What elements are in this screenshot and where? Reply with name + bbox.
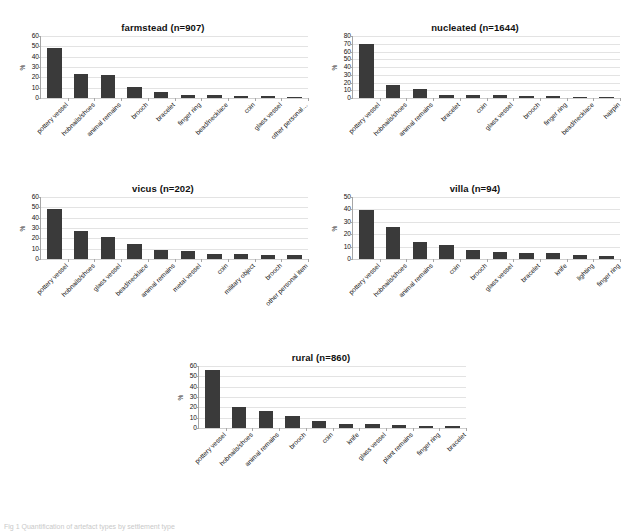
bar-slot xyxy=(255,36,282,98)
bar xyxy=(439,245,453,259)
bar xyxy=(47,48,61,98)
x-tickmark xyxy=(255,98,256,101)
bar-slot xyxy=(460,36,487,98)
bar xyxy=(207,95,221,98)
x-tick-label-text: glass vessel xyxy=(484,101,514,131)
bar xyxy=(359,44,373,98)
x-tick-label-text: brooch xyxy=(288,431,307,450)
bar-slot xyxy=(252,366,279,428)
bar xyxy=(285,416,299,428)
bar-slot xyxy=(148,36,175,98)
bar xyxy=(127,87,141,98)
x-tickmark xyxy=(593,98,594,101)
x-tick-label-text: bracelet xyxy=(154,101,176,123)
x-tickmark xyxy=(513,259,514,262)
y-axis-label-nucleated: % xyxy=(330,36,339,99)
y-axis-label-text: % xyxy=(331,226,338,232)
bar xyxy=(466,250,480,259)
x-tick-label: brooch xyxy=(130,101,149,120)
x-tickmark xyxy=(406,98,407,101)
bar xyxy=(47,209,61,259)
x-tickmark xyxy=(148,98,149,101)
bar xyxy=(207,254,221,259)
bar xyxy=(413,89,427,98)
chart-panel-vicus: vicus (n=202)%0102030405060pottery vesse… xyxy=(18,183,308,260)
x-tick-label-text: bracelet xyxy=(520,262,542,284)
bar-slot xyxy=(175,36,202,98)
bar-slot xyxy=(281,36,308,98)
x-tickmark xyxy=(433,259,434,262)
bar-slot xyxy=(68,197,95,259)
bar xyxy=(312,421,326,428)
bar-slot xyxy=(353,197,380,259)
chart-title-rural: rural (n=860) xyxy=(176,352,466,363)
bar-slot xyxy=(121,36,148,98)
bar xyxy=(573,255,587,259)
x-tick-label-text: knife xyxy=(346,431,361,446)
bar-slot xyxy=(201,36,228,98)
y-tickmark xyxy=(350,259,353,260)
bar-slot xyxy=(487,197,514,259)
x-tickmark xyxy=(281,98,282,101)
y-axis-label-text: % xyxy=(19,65,26,71)
x-tick-label-text: glass vessel xyxy=(484,262,514,292)
x-tickmark xyxy=(201,259,202,262)
bar-slot xyxy=(540,36,567,98)
x-tickmark xyxy=(279,428,280,431)
bar-slot xyxy=(406,197,433,259)
x-tickmark xyxy=(380,98,381,101)
x-tick-label-text: finger ring xyxy=(542,101,568,127)
x-tick-label-text: coin xyxy=(216,262,230,276)
x-tickmark xyxy=(460,259,461,262)
x-tickmark xyxy=(228,98,229,101)
x-tick-label: bracelet xyxy=(520,262,542,284)
plot-area-vicus: pottery vesselhobnails/shoesglass vessel… xyxy=(40,197,308,260)
plot-area-farmstead: pottery vesselhobnails/shoesanimal remai… xyxy=(40,36,308,99)
x-tickmark xyxy=(487,259,488,262)
x-tickmark xyxy=(540,259,541,262)
y-axis-label-villa: % xyxy=(330,197,339,260)
x-tick-label-text: finger ring xyxy=(177,101,203,127)
bar-slot xyxy=(255,197,282,259)
chart-title-farmstead: farmstead (n=907) xyxy=(18,22,308,33)
x-tick-label: finger ring xyxy=(415,431,441,457)
bar-slot xyxy=(41,36,68,98)
x-tick-label: coin xyxy=(320,431,334,445)
plot-area-villa: pottery vesselhobnails/shoesanimal remai… xyxy=(352,197,620,260)
x-tickmark xyxy=(228,259,229,262)
x-tickmark xyxy=(620,98,621,101)
x-tickmark xyxy=(593,259,594,262)
bar-slot xyxy=(201,197,228,259)
x-tick-label: coin xyxy=(447,262,461,276)
x-tick-label: finger ring xyxy=(596,262,622,288)
x-tick-label: bracelet xyxy=(446,431,468,453)
bar xyxy=(546,96,560,98)
x-tickmark xyxy=(406,259,407,262)
x-tickmark xyxy=(201,98,202,101)
x-tick-label-text: brooch xyxy=(130,101,149,120)
x-tick-label-text: knife xyxy=(553,262,568,277)
x-tickmark xyxy=(433,98,434,101)
bar xyxy=(519,96,533,98)
y-tickmark xyxy=(38,98,41,99)
x-tick-label-text: coin xyxy=(474,101,488,115)
x-tick-label: glass vessel xyxy=(484,262,514,292)
bar-slot xyxy=(513,36,540,98)
x-tick-label-text: finger ring xyxy=(415,431,441,457)
x-tickmark xyxy=(148,259,149,262)
bar-slot xyxy=(41,197,68,259)
bar-series-farmstead xyxy=(41,36,308,98)
bar xyxy=(386,227,400,259)
x-tick-label: hairpin xyxy=(602,101,621,120)
bar-slot xyxy=(359,366,386,428)
bar xyxy=(74,74,88,98)
bar xyxy=(493,95,507,98)
bar-slot xyxy=(593,197,620,259)
x-tick-label: lighting xyxy=(575,262,595,282)
x-tickmark xyxy=(175,259,176,262)
bar-slot xyxy=(406,36,433,98)
y-axis-label-rural: % xyxy=(176,366,185,429)
x-tick-label: brooch xyxy=(288,431,307,450)
bar-slot xyxy=(433,197,460,259)
x-tick-label-text: brooch xyxy=(522,101,541,120)
